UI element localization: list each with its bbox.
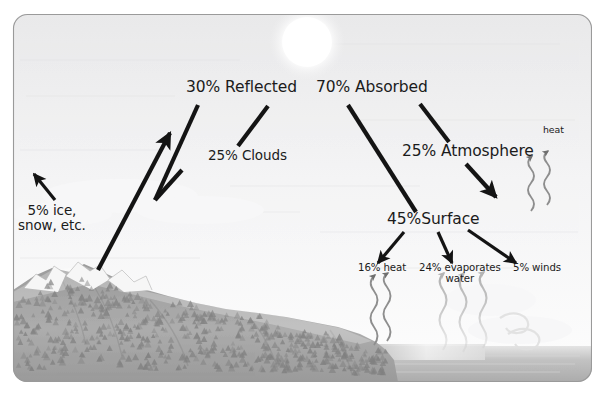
label-heat-atmosphere: heat bbox=[543, 125, 564, 136]
label-evaporates-water: 24% evaporates water bbox=[419, 262, 501, 285]
label-ice-snow: 5% ice, snow, etc. bbox=[18, 203, 86, 233]
diagram-canvas: 30% Reflected 25% Clouds 5% ice, snow, e… bbox=[0, 0, 592, 394]
label-heat-surface: 16% heat bbox=[358, 262, 406, 273]
label-winds: 5% winds bbox=[513, 262, 561, 273]
scene-contents bbox=[12, 4, 592, 386]
label-absorbed: 70% Absorbed bbox=[316, 79, 428, 96]
label-clouds: 25% Clouds bbox=[208, 148, 287, 163]
energy-budget-illustration bbox=[0, 0, 592, 394]
label-surface: 45%Surface bbox=[387, 211, 480, 228]
label-atmosphere: 25% Atmosphere bbox=[402, 143, 534, 160]
label-reflected: 30% Reflected bbox=[186, 79, 297, 96]
sun-core bbox=[282, 17, 332, 67]
